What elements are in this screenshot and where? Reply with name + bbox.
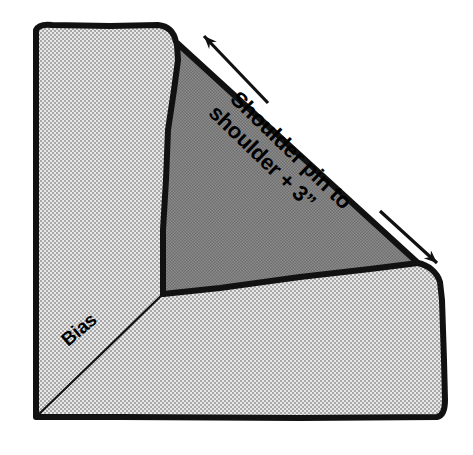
fabric-fold-illustration <box>0 0 473 455</box>
diagram-canvas: Shoulder pin to shoulder + 3” Bias <box>0 0 473 455</box>
